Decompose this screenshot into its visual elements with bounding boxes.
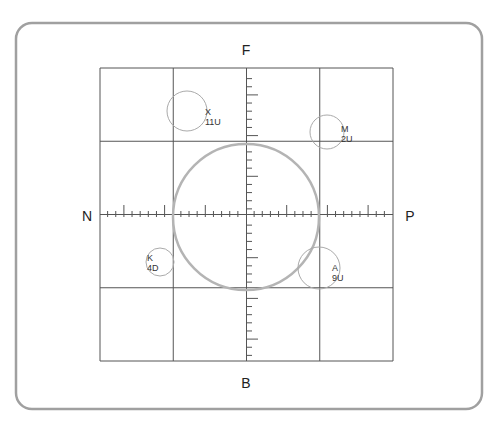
target-range: 4D xyxy=(147,263,159,273)
label-left-N: N xyxy=(82,208,92,224)
target-label-M: M2U xyxy=(341,124,353,144)
target-range: 11U xyxy=(205,117,221,127)
target-label-X: X11U xyxy=(205,107,221,127)
target-circle-M xyxy=(310,115,344,149)
label-bottom-B: B xyxy=(241,375,250,391)
target-range: 9U xyxy=(332,273,344,283)
target-id: K xyxy=(147,253,159,263)
target-id: M xyxy=(341,124,353,134)
diagram-canvas xyxy=(0,0,498,428)
target-label-A: A9U xyxy=(332,263,344,283)
target-label-K: K4D xyxy=(147,253,159,273)
target-id: X xyxy=(205,107,221,117)
target-id: A xyxy=(332,263,344,273)
label-right-P: P xyxy=(405,208,414,224)
target-range: 2U xyxy=(341,134,353,144)
label-top-F: F xyxy=(242,42,251,58)
radar-diagram: F B N P X11UM2UK4DA9U xyxy=(0,0,498,428)
